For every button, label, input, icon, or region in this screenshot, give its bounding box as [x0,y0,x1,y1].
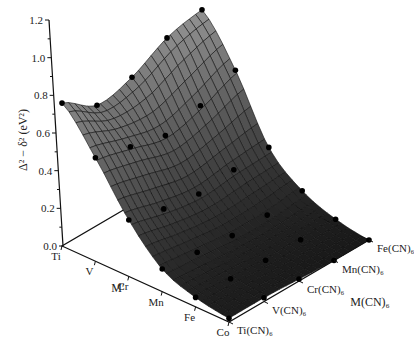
z-tick-label: 0.4 [39,165,53,177]
data-point [128,144,134,150]
data-point [194,250,200,256]
x-tick-label: Co [217,326,230,338]
data-point [198,103,204,109]
data-point [59,100,65,106]
data-point [226,315,232,321]
data-point [228,276,234,282]
data-point [129,74,135,80]
y-tick-label: Ti(CN)₆ [237,324,273,337]
data-point [161,206,167,212]
z-tick-label: 0.8 [34,89,48,101]
data-point [233,67,239,73]
data-point [193,295,199,301]
data-point [94,102,100,108]
data-point [164,35,170,41]
data-point [231,167,237,173]
data-point [333,216,339,222]
z-tick-label: 1.0 [32,52,46,64]
data-point [298,237,304,243]
z-axis: 0.00.20.40.60.81.01.2 [29,14,63,252]
x-tick-label: Ti [51,250,60,262]
data-point [93,155,99,161]
surface-chart: 0.00.20.40.60.81.01.2 TiVCrMnFeCo Ti(CN)… [0,0,414,343]
z-tick-label: 1.2 [29,14,43,26]
x-tick-label: Mn [149,296,165,308]
data-point [229,233,235,239]
z-axis-label: Δ² − δ² (eV²) [16,109,30,171]
y-axis-label: M(CN)₆ [350,295,390,309]
z-tick-label: 0.2 [41,202,55,214]
data-point [261,295,267,301]
y-tick-label: V(CN)₆ [272,304,307,317]
data-point [264,212,270,218]
y-tick-label: Fe(CN)₆ [377,242,414,255]
x-axis-label: M′ [111,281,125,295]
data-point [266,145,272,151]
data-point [159,266,165,272]
data-point [126,217,132,223]
data-point [199,7,205,13]
data-point [163,133,169,139]
x-tick-label: Fe [184,311,195,323]
surface-mesh [62,10,369,318]
data-point [299,188,305,194]
y-tick-label: Mn(CN)₆ [342,263,384,276]
x-tick-label: V [85,265,93,277]
z-tick-label: 0.6 [36,127,50,139]
data-point [263,257,269,263]
y-tick-label: Cr(CN)₆ [307,283,345,296]
data-point [196,191,202,197]
